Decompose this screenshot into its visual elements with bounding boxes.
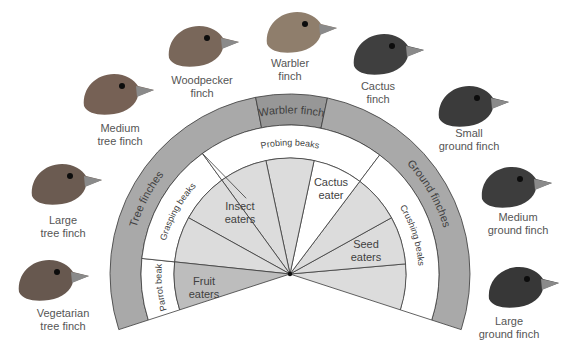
bird-head-warbler xyxy=(267,12,337,53)
bird-head-cactus xyxy=(354,34,424,75)
bird-label-line: tree finch xyxy=(40,227,85,240)
finch-beak-diagram: Tree finchesWarbler finchGround finchesP… xyxy=(0,0,581,352)
bird-label-line: Small xyxy=(439,127,500,140)
bird-label-line: ground finch xyxy=(439,140,500,153)
bird-head-large-ground xyxy=(489,267,559,308)
center-point xyxy=(288,272,292,276)
bird-label-line: tree finch xyxy=(97,135,142,148)
bird-label-warbler: Warblerfinch xyxy=(271,57,309,83)
bird-label-large-tree: Largetree finch xyxy=(40,214,85,240)
bird-label-line: finch xyxy=(171,87,233,100)
bird-label-woodpecker: Woodpeckerfinch xyxy=(171,74,233,100)
bird-head-vegetarian-tree xyxy=(19,260,89,301)
bird-label-line: Medium xyxy=(488,211,549,224)
bird-head-woodpecker xyxy=(169,26,239,67)
label-cactus-eater: Cactuseater xyxy=(314,176,349,201)
bird-label-medium-tree: Mediumtree finch xyxy=(97,122,142,148)
bird-label-line: ground finch xyxy=(488,224,549,237)
bird-label-large-ground: Largeground finch xyxy=(479,315,540,341)
bird-label-line: tree finch xyxy=(37,320,90,333)
bird-label-line: Medium xyxy=(97,122,142,135)
bird-head-small-ground xyxy=(439,86,509,127)
bird-label-cactus: Cactusfinch xyxy=(361,80,395,106)
bird-label-line: Vegetarian xyxy=(37,307,90,320)
bird-label-line: Woodpecker xyxy=(171,74,233,87)
label-seed-eaters: Seedeaters xyxy=(351,238,382,263)
bird-label-line: Large xyxy=(479,315,540,328)
bird-label-line: Cactus xyxy=(361,80,395,93)
bird-label-line: finch xyxy=(361,93,395,106)
bird-head-medium-ground xyxy=(482,167,552,208)
bird-label-line: finch xyxy=(271,70,309,83)
bird-label-line: Large xyxy=(40,214,85,227)
bird-label-line: ground finch xyxy=(479,328,540,341)
bird-label-vegetarian-tree: Vegetariantree finch xyxy=(37,307,90,333)
label-insect-eaters: Insecteaters xyxy=(225,200,256,225)
bird-head-medium-tree xyxy=(84,74,154,115)
bird-label-medium-ground: Mediumground finch xyxy=(488,211,549,237)
bird-label-line: Warbler xyxy=(271,57,309,70)
bird-label-small-ground: Smallground finch xyxy=(439,127,500,153)
bird-head-large-tree xyxy=(32,164,102,205)
